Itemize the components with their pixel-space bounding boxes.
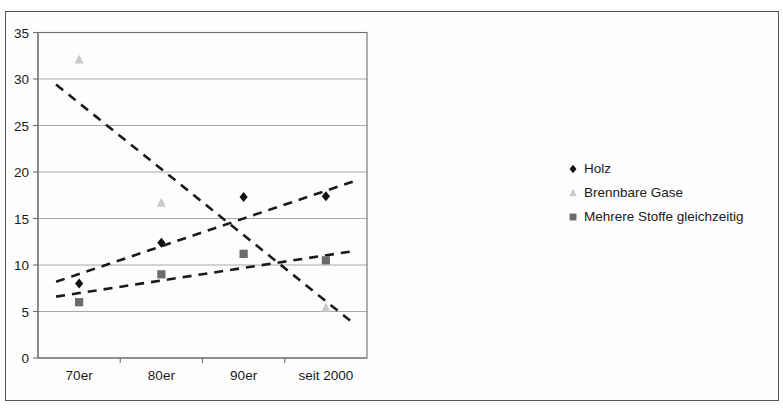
- y-axis-tick-label: 10: [14, 258, 29, 273]
- x-axis-category-label: seit 2000: [298, 368, 353, 383]
- data-point-holz: [322, 191, 330, 201]
- chart-page: 05101520253035 70er80er90erseit 2000 Hol…: [0, 0, 783, 417]
- legend-marker-diamond: [570, 165, 577, 173]
- trendlines-group: [56, 85, 354, 324]
- x-axis-category-label: 90er: [230, 368, 258, 383]
- data-point-brennbare-gase: [75, 54, 84, 63]
- x-axis-category-label: 70er: [66, 368, 94, 383]
- legend-marker-square: [570, 214, 577, 221]
- x-axis-tickmarks: [120, 358, 285, 363]
- data-point-mehrere-stoffe-gleichzeitig: [240, 250, 248, 258]
- trendline-holz: [56, 181, 354, 281]
- chart-svg: 05101520253035 70er80er90erseit 2000 Hol…: [0, 0, 783, 417]
- y-axis-tick-label: 35: [14, 26, 29, 41]
- x-axis-category-labels: 70er80er90erseit 2000: [66, 368, 354, 383]
- legend-marker-triangle: [569, 189, 577, 197]
- y-axis-tick-label: 15: [14, 212, 29, 227]
- data-point-brennbare-gase: [321, 303, 330, 312]
- legend-label: Mehrere Stoffe gleichzeitig: [584, 209, 744, 224]
- legend-label: Holz: [584, 161, 611, 176]
- data-point-brennbare-gase: [157, 198, 166, 207]
- trendline-brennbare-gase: [56, 85, 354, 324]
- y-axis-tick-labels: 05101520253035: [14, 26, 29, 367]
- y-axis-tick-label: 25: [14, 119, 29, 134]
- legend-label: Brennbare Gase: [584, 185, 683, 200]
- y-axis-tickmarks: [33, 33, 38, 359]
- gridlines-group: [38, 33, 367, 359]
- y-axis-tick-label: 0: [21, 351, 29, 366]
- chart-legend: HolzBrennbare GaseMehrere Stoffe gleichz…: [569, 161, 743, 224]
- y-axis-tick-label: 5: [21, 305, 29, 320]
- plot-area-border: [38, 33, 367, 359]
- x-axis-category-label: 80er: [148, 368, 176, 383]
- y-axis-tick-label: 20: [14, 165, 29, 180]
- data-point-holz: [240, 192, 248, 202]
- data-point-mehrere-stoffe-gleichzeitig: [157, 270, 165, 278]
- data-point-holz: [75, 279, 83, 289]
- data-point-mehrere-stoffe-gleichzeitig: [75, 298, 83, 306]
- data-point-mehrere-stoffe-gleichzeitig: [322, 256, 330, 264]
- scatter-chart: 05101520253035 70er80er90erseit 2000 Hol…: [0, 0, 783, 417]
- y-axis-tick-label: 30: [14, 72, 29, 87]
- trendline-mehrere-stoffe-gleichzeitig: [56, 251, 354, 297]
